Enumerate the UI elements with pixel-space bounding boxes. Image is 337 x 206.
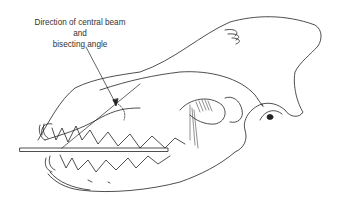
film-bar: [20, 148, 168, 152]
upper-teeth: [52, 126, 185, 148]
angle-arc: [118, 104, 125, 120]
beam-direction-label: Direction of central beam and bisecting …: [20, 17, 140, 50]
lower-teeth: [60, 155, 170, 172]
label-line-2: and: [20, 28, 140, 39]
label-line-3: bisecting angle: [20, 39, 140, 50]
beam-line: [86, 47, 116, 104]
bisecting-line: [62, 84, 140, 148]
orbit: [180, 99, 225, 124]
diagram-canvas: Direction of central beam and bisecting …: [0, 0, 337, 206]
label-line-1: Direction of central beam: [20, 17, 140, 28]
